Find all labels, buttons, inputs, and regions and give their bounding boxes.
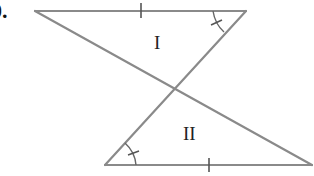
diagonal-line-2: [105, 11, 246, 165]
diagonal-line-1: [35, 11, 312, 165]
congruent-triangles-figure: I II: [0, 0, 314, 176]
triangle-II-label: II: [183, 123, 196, 144]
triangle-I-label: I: [154, 32, 160, 53]
